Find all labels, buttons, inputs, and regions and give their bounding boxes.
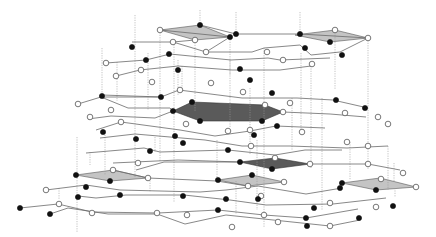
lattice-bond: [200, 190, 226, 192]
black-site-node: [117, 192, 122, 197]
lattice-bond: [250, 126, 276, 131]
white-site-node: [280, 109, 286, 115]
black-site-node: [362, 105, 367, 110]
lattice-bond: [276, 126, 325, 128]
lattice-bond: [228, 150, 275, 155]
white-site-node: [183, 121, 189, 127]
white-site-node: [203, 49, 209, 55]
lattice-bond: [258, 186, 306, 194]
lattice-bond: [268, 58, 280, 60]
white-site-node: [373, 204, 379, 210]
white-site-node: [108, 107, 114, 113]
black-site-node: [339, 180, 344, 185]
black-site-node: [189, 99, 194, 104]
lattice-bond: [78, 97, 101, 104]
lattice-bond: [231, 58, 268, 60]
white-site-node: [247, 127, 253, 133]
lattice-bond: [135, 134, 205, 140]
lattice-bond: [330, 114, 366, 117]
white-site-node: [275, 219, 281, 225]
black-site-node: [180, 140, 185, 145]
lattice-bond: [306, 188, 342, 194]
white-site-node: [280, 57, 286, 63]
white-site-node: [103, 60, 109, 66]
black-site-node: [75, 194, 80, 199]
black-site-node: [197, 22, 202, 27]
white-site-node: [327, 200, 333, 206]
lattice-bond: [170, 54, 231, 60]
white-site-node: [378, 176, 384, 182]
black-site-node: [166, 51, 171, 56]
lattice-bond: [280, 66, 311, 70]
lattice-bond: [215, 131, 250, 136]
white-site-node: [342, 110, 348, 116]
white-site-node: [43, 187, 49, 193]
white-site-node: [375, 114, 381, 120]
black-site-node: [107, 178, 112, 183]
black-site-node: [197, 118, 202, 123]
lattice-bond: [179, 90, 242, 98]
lattice-bond: [116, 70, 140, 76]
white-site-node: [261, 212, 267, 218]
black-site-node: [390, 203, 395, 208]
black-site-node: [225, 147, 230, 152]
white-site-node: [170, 39, 176, 45]
black-site-node: [259, 118, 264, 123]
lattice-bond: [297, 98, 333, 100]
lattice-bond: [160, 150, 228, 152]
lattice-bond: [120, 190, 200, 192]
lattice-bond: [46, 185, 86, 190]
white-site-node: [272, 155, 278, 161]
lattice-bond: [290, 146, 347, 148]
white-site-node: [110, 167, 116, 173]
white-site-node: [192, 37, 198, 43]
black-site-node: [129, 44, 134, 49]
lattice-bond: [148, 178, 217, 181]
white-site-node: [149, 79, 155, 85]
lattice-bond: [173, 40, 195, 42]
lattice-bond: [173, 42, 206, 52]
white-site-node: [299, 129, 305, 135]
black-site-node: [333, 97, 338, 102]
black-site-node: [73, 172, 78, 177]
lattice-bond: [113, 160, 178, 163]
lattice-bond: [368, 164, 400, 170]
black-site-node: [233, 31, 238, 36]
white-site-node: [248, 143, 254, 149]
lattice-bond: [280, 58, 330, 60]
black-site-node: [99, 93, 104, 98]
lattice-bond: [111, 116, 155, 118]
black-site-node: [47, 211, 52, 216]
lattice-bond: [230, 200, 266, 205]
black-site-node: [237, 159, 242, 164]
white-site-node: [87, 114, 93, 120]
lattice-bond: [333, 198, 386, 204]
black-site-node: [274, 123, 279, 128]
white-site-node: [75, 101, 81, 107]
black-site-node: [356, 215, 361, 220]
black-site-node: [227, 34, 232, 39]
black-site-node: [247, 77, 252, 82]
black-site-node: [249, 172, 254, 177]
white-site-node: [365, 161, 371, 167]
black-site-node: [311, 205, 316, 210]
white-site-node: [262, 102, 268, 108]
black-site-node: [302, 45, 307, 50]
lattice-bond: [226, 186, 258, 190]
black-site-node: [251, 132, 256, 137]
black-site-node: [175, 67, 180, 72]
lattice-bond: [86, 185, 120, 190]
white-site-node: [135, 160, 141, 166]
lattice-bond: [206, 37, 230, 52]
lattice-bond: [264, 45, 300, 48]
white-site-node: [56, 201, 62, 207]
white-site-node: [400, 170, 406, 176]
black-site-node: [303, 215, 308, 220]
black-site-node: [170, 108, 175, 113]
black-site-node: [172, 133, 177, 138]
lattice-bond: [330, 220, 360, 226]
black-site-node: [255, 196, 260, 201]
white-site-node: [208, 80, 214, 86]
white-site-node: [138, 67, 144, 73]
white-site-node: [184, 212, 190, 218]
